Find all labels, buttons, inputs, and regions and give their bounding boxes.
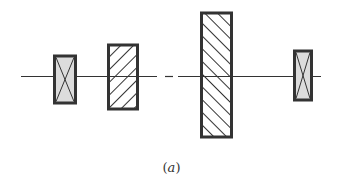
right-bearing-icon xyxy=(295,51,312,100)
caption-close: ) xyxy=(175,160,180,175)
shaft-diagram xyxy=(0,0,343,184)
figure-caption: (a) xyxy=(0,160,343,175)
left-bearing-icon xyxy=(55,56,76,103)
small-gear-icon xyxy=(109,45,138,109)
large-gear-icon xyxy=(202,13,232,137)
